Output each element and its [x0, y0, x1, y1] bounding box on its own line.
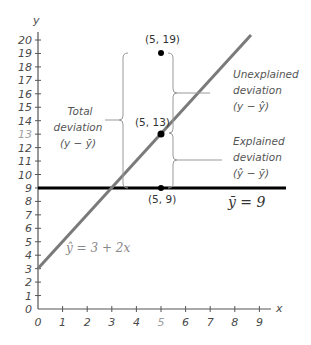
explained-deviation-brace [168, 133, 222, 188]
x-axis-label: x [275, 302, 283, 315]
label-5-13: (5, 13) [135, 116, 170, 128]
point-5-9 [158, 185, 164, 191]
y-tick-label: 7 [25, 209, 32, 222]
y-tick-label: 14 [18, 115, 32, 128]
y-tick-label: 18 [18, 61, 32, 74]
x-tick-label: 2 [84, 316, 91, 329]
regression-line [38, 35, 251, 269]
svg-text:Explained: Explained [233, 135, 285, 147]
y-tick-label: 17 [18, 74, 32, 87]
x-tick-label: 4 [133, 316, 140, 329]
x-tick-label: 0 [35, 316, 42, 329]
point-5-13 [158, 131, 165, 138]
point-5-19 [158, 50, 164, 56]
svg-text:deviation: deviation [233, 84, 282, 96]
y-tick-label: 3 [25, 263, 32, 276]
y-axis-label: y [32, 14, 40, 27]
y-tick-label: 16 [18, 88, 32, 101]
svg-text:(y − ȳ): (y − ȳ) [60, 137, 96, 149]
svg-text:Total: Total [67, 105, 92, 117]
y-tick-label: 6 [25, 222, 32, 235]
y-tick-label: 15 [18, 101, 32, 114]
y-tick-label: 2 [25, 276, 32, 289]
y-tick-label: 4 [25, 249, 32, 262]
svg-text:deviation: deviation [233, 151, 282, 163]
y-tick-label: 11 [18, 155, 32, 168]
svg-text:Unexplained: Unexplained [233, 68, 299, 80]
regression-equation: ŷ = 3 + 2x [65, 241, 130, 255]
total-deviation-brace [105, 53, 128, 188]
regression-deviation-chart: y x 01234567891011121314151617181920 012… [0, 0, 311, 345]
svg-text:(ŷ − ȳ): (ŷ − ȳ) [233, 167, 269, 179]
unexplained-deviation-label: Unexplained deviation (y − ŷ) [233, 68, 299, 112]
explained-deviation-label: Explained deviation (ŷ − ȳ) [233, 135, 285, 179]
y-tick-label: 9 [25, 182, 32, 195]
svg-text:deviation: deviation [54, 121, 103, 133]
x-tick-label: 6 [182, 316, 189, 329]
total-deviation-label: Total deviation (y − ȳ) [54, 105, 103, 149]
y-tick-label: 12 [18, 142, 32, 155]
x-tick-label: 1 [59, 316, 66, 329]
label-5-19: (5, 19) [145, 33, 180, 45]
mean-equation: ȳ = 9 [227, 194, 266, 210]
x-tick-label: 9 [256, 316, 263, 329]
x-tick-label: 5 [158, 316, 165, 329]
y-tick-label: 20 [18, 34, 32, 47]
x-tick-label: 8 [231, 316, 238, 329]
x-tick-label: 3 [108, 316, 115, 329]
x-tick-label: 7 [207, 316, 214, 329]
y-tick-label: 0 [25, 303, 32, 316]
label-5-9: (5, 9) [148, 193, 176, 205]
y-tick-label: 19 [18, 47, 32, 60]
y-tick-label: 10 [18, 169, 32, 182]
y-tick-label: 13 [18, 128, 32, 141]
y-tick-label: 5 [25, 236, 32, 249]
y-tick-label: 8 [25, 195, 32, 208]
svg-text:(y − ŷ): (y − ŷ) [233, 100, 269, 112]
y-tick-label: 1 [25, 290, 32, 303]
